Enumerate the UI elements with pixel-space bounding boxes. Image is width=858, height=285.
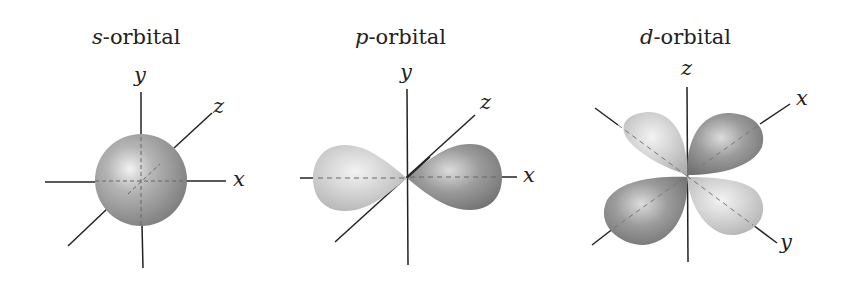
d-lobe-lower-left — [604, 177, 687, 245]
d-y-label: y — [780, 230, 792, 254]
s-orbital-title: s-orbital — [92, 25, 180, 49]
s-z-axis-upper — [174, 113, 212, 148]
d-x-axis-upper — [760, 104, 790, 124]
d-x-label: x — [796, 86, 808, 110]
p-y-label: y — [400, 60, 412, 84]
s-y-label: y — [134, 63, 146, 87]
s-orbital-diagram — [45, 92, 226, 268]
p-z-label: z — [480, 90, 491, 114]
p-orbital-diagram — [300, 89, 517, 265]
d-lobe-upper-right — [687, 113, 763, 175]
d-y-axis-lower — [753, 225, 777, 243]
s-z-axis-lower — [68, 209, 107, 246]
d-orbital-diagram — [592, 87, 790, 262]
p-orbital-title: p-orbital — [355, 25, 446, 49]
s-x-label: x — [233, 167, 245, 191]
s-z-label: z — [213, 94, 224, 118]
d-z-label: z — [681, 56, 692, 80]
s-y-axis-lower — [142, 225, 143, 268]
p-x-label: x — [523, 163, 535, 187]
d-y-axis-upper — [595, 108, 618, 125]
d-lobe-lower-right — [687, 177, 763, 235]
d-lobe-upper-left — [623, 112, 687, 175]
d-orbital-title: d-orbital — [640, 25, 731, 49]
